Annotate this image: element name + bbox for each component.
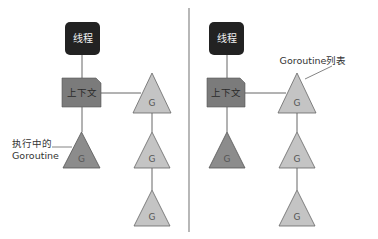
left-panel: 线程 上下文 G 执行中的 Goroutine G G G <box>12 22 171 226</box>
queue-annotation: Goroutine列表 <box>280 55 347 66</box>
running-goroutine: G <box>63 132 100 168</box>
context-box: 上下文 <box>207 78 245 107</box>
goroutine-label: G <box>149 98 156 108</box>
running-annotation-line2: Goroutine <box>12 150 59 161</box>
goroutine-label: G <box>149 212 156 222</box>
context-box: 上下文 <box>62 78 101 107</box>
running-annotation-line1: 执行中的 <box>12 138 52 149</box>
queued-goroutine: G <box>134 190 170 226</box>
thread-label: 线程 <box>73 32 93 44</box>
goroutine-label: G <box>224 154 231 164</box>
goroutine-label: G <box>78 154 85 164</box>
queued-goroutine: G <box>279 190 315 226</box>
queued-goroutine: G <box>134 132 170 168</box>
thread-label: 线程 <box>217 32 237 44</box>
thread-box: 线程 <box>209 22 244 55</box>
thread-box: 线程 <box>65 22 100 55</box>
goroutine-scheduling-diagram: 线程 上下文 G 执行中的 Goroutine G G G <box>0 0 378 239</box>
goroutine-queue: G G G <box>278 73 316 226</box>
goroutine-label: G <box>294 212 301 222</box>
goroutine-queue: G G G <box>133 73 171 226</box>
right-panel: 线程 上下文 G Goroutine列表 G G G <box>207 22 346 226</box>
goroutine-label: G <box>149 154 156 164</box>
context-label: 上下文 <box>67 87 97 98</box>
goroutine-label: G <box>294 154 301 164</box>
running-goroutine: G <box>209 132 245 168</box>
context-label: 上下文 <box>211 87 241 98</box>
annotation-leader <box>305 66 332 79</box>
goroutine-label: G <box>294 98 301 108</box>
queued-goroutine: G <box>279 132 315 168</box>
